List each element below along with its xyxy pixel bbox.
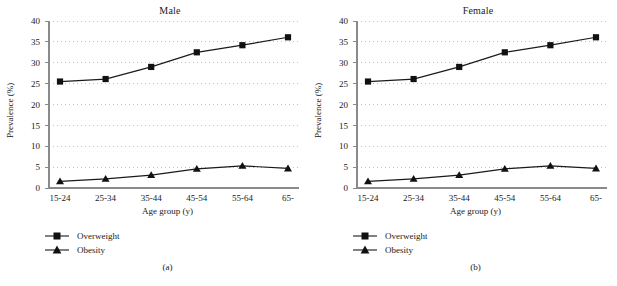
data-point-square xyxy=(547,42,553,48)
legend-label-overweight: Overweight xyxy=(77,231,120,241)
x-tick-label: 55-64 xyxy=(232,193,253,203)
data-point-square xyxy=(148,64,154,70)
legend-male: Overweight Obesity xyxy=(44,229,120,257)
legend-key-triangle-icon xyxy=(352,244,378,256)
legend-label-obesity: Obesity xyxy=(385,245,413,255)
x-axis-label-male: Age group (y) xyxy=(40,206,295,216)
y-tick-label: 0 xyxy=(36,183,41,193)
legend-item-overweight: Overweight xyxy=(352,229,428,243)
panel-caption-b: (b) xyxy=(348,262,603,272)
y-tick-label: 35 xyxy=(339,37,349,47)
x-axis-label-female: Age group (y) xyxy=(348,206,603,216)
y-tick-label: 0 xyxy=(344,183,349,193)
y-tick-label: 40 xyxy=(31,16,41,26)
y-tick-label: 20 xyxy=(339,100,349,110)
y-tick-label: 5 xyxy=(36,162,41,172)
legend-item-overweight: Overweight xyxy=(44,229,120,243)
data-point-square xyxy=(456,64,462,70)
data-point-square xyxy=(194,49,200,55)
y-tick-label: 40 xyxy=(339,16,349,26)
x-tick-label: 15-24 xyxy=(50,193,71,203)
y-tick-label: 10 xyxy=(339,141,349,151)
legend-female: Overweight Obesity xyxy=(352,229,428,257)
x-tick-label: 45-54 xyxy=(186,193,207,203)
y-tick-label: 15 xyxy=(339,121,349,131)
panel-female: Female Prevalence (%) 051015202530354015… xyxy=(308,0,616,286)
y-tick-label: 30 xyxy=(339,58,349,68)
legend-key-square-icon xyxy=(44,230,70,242)
plot-area-male: Prevalence (%) 051015202530354015-2425-3… xyxy=(0,0,308,286)
figure-two-panel-line-charts: Male Prevalence (%) 051015202530354015-2… xyxy=(0,0,617,286)
panel-male: Male Prevalence (%) 051015202530354015-2… xyxy=(0,0,308,286)
legend-key-triangle-icon xyxy=(44,244,70,256)
x-tick-label: 15-24 xyxy=(358,193,379,203)
data-point-square xyxy=(57,78,63,84)
data-point-square xyxy=(103,76,109,82)
x-tick-label: 45-54 xyxy=(494,193,515,203)
x-tick-label: 55-64 xyxy=(540,193,561,203)
x-tick-label: 65- xyxy=(590,193,602,203)
legend-item-obesity: Obesity xyxy=(352,243,428,257)
x-tick-label: 65- xyxy=(282,193,294,203)
data-point-triangle xyxy=(546,162,554,169)
y-tick-label: 35 xyxy=(31,37,41,47)
data-point-triangle xyxy=(238,162,246,169)
legend-key-square-icon xyxy=(352,230,378,242)
y-tick-label: 25 xyxy=(339,79,349,89)
data-point-square xyxy=(411,76,417,82)
x-tick-label: 25-34 xyxy=(403,193,424,203)
x-tick-label: 35-44 xyxy=(449,193,470,203)
y-tick-label: 15 xyxy=(31,121,41,131)
data-point-square xyxy=(365,78,371,84)
data-point-square xyxy=(593,34,599,40)
y-tick-label: 30 xyxy=(31,58,41,68)
legend-label-overweight: Overweight xyxy=(385,231,428,241)
y-tick-label: 10 xyxy=(31,141,41,151)
data-point-square xyxy=(239,42,245,48)
data-point-square xyxy=(502,49,508,55)
x-tick-label: 25-34 xyxy=(95,193,116,203)
panel-caption-a: (a) xyxy=(40,262,295,272)
plot-area-female: Prevalence (%) 051015202530354015-2425-3… xyxy=(308,0,616,286)
legend-item-obesity: Obesity xyxy=(44,243,120,257)
y-tick-label: 20 xyxy=(31,100,41,110)
x-tick-label: 35-44 xyxy=(141,193,162,203)
y-tick-label: 25 xyxy=(31,79,41,89)
legend-label-obesity: Obesity xyxy=(77,245,105,255)
y-tick-label: 5 xyxy=(344,162,349,172)
data-point-square xyxy=(285,34,291,40)
